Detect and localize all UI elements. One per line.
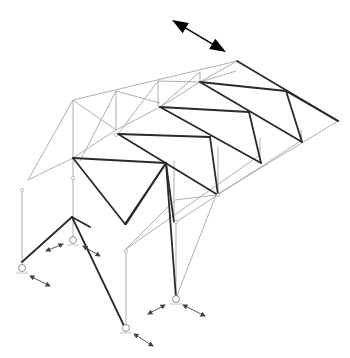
support-arrows xyxy=(30,244,205,346)
member-thick xyxy=(73,158,125,224)
member-thin xyxy=(28,100,73,180)
member-thin xyxy=(73,100,116,130)
joint xyxy=(124,249,127,252)
member-thin xyxy=(126,200,175,249)
member-thick xyxy=(73,158,166,163)
truss-diagram xyxy=(0,0,350,358)
support-node xyxy=(123,325,130,332)
member-thin xyxy=(126,155,260,249)
member-thin xyxy=(175,195,216,200)
joints xyxy=(20,133,219,252)
member-thin xyxy=(28,158,73,180)
member-thick xyxy=(249,112,261,163)
member-thin xyxy=(200,71,236,82)
member-thick xyxy=(210,137,218,195)
double-arrow-small-icon xyxy=(83,246,100,256)
member-thick xyxy=(72,217,126,330)
member-thick xyxy=(22,217,72,262)
supports xyxy=(16,237,182,334)
member-thick xyxy=(160,107,249,112)
member-thick xyxy=(118,134,210,137)
member-thin xyxy=(73,61,237,100)
member-thin xyxy=(200,61,237,82)
joint xyxy=(20,188,23,191)
double-arrow-icon xyxy=(172,20,226,52)
support-node xyxy=(70,237,77,244)
support-node xyxy=(173,296,180,303)
joint xyxy=(114,133,117,136)
double-arrow-small-icon xyxy=(148,305,165,314)
double-arrow-small-icon xyxy=(134,334,153,346)
double-arrow-small-icon xyxy=(30,276,50,286)
double-arrow-small-icon xyxy=(46,244,63,251)
member-thin xyxy=(160,72,200,107)
joint xyxy=(71,176,74,179)
member-thin xyxy=(116,91,160,103)
member-thin xyxy=(176,195,216,298)
member-thin xyxy=(116,107,160,130)
thin-members xyxy=(22,61,338,330)
support-node xyxy=(19,265,26,272)
joint xyxy=(174,220,177,223)
member-thin xyxy=(160,82,200,107)
member-thick xyxy=(166,163,176,298)
member-thin xyxy=(73,130,116,158)
double-arrow-small-icon xyxy=(183,305,205,316)
thick-members xyxy=(22,61,338,330)
member-thin xyxy=(158,81,200,82)
joint xyxy=(216,193,219,196)
